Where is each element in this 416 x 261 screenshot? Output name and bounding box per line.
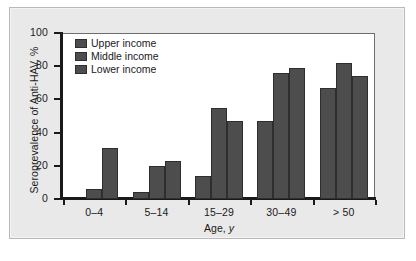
x-tick-label: 15–29 bbox=[184, 206, 254, 218]
bar bbox=[102, 148, 118, 199]
legend-swatch-icon bbox=[75, 39, 87, 48]
y-tick-mark bbox=[54, 165, 60, 167]
y-tick-mark bbox=[54, 65, 60, 67]
bar bbox=[273, 73, 289, 199]
bar bbox=[289, 68, 305, 199]
bar bbox=[320, 88, 336, 199]
legend-item: Middle income bbox=[75, 50, 159, 62]
x-tick-label: 5–14 bbox=[122, 206, 192, 218]
y-axis-title: Seroprevalence of Anti-HAV, % bbox=[28, 35, 40, 205]
x-axis-title-text: Age, bbox=[204, 222, 229, 234]
x-tick-mark bbox=[313, 200, 315, 205]
x-tick-mark bbox=[375, 200, 377, 205]
x-axis-title-variable: y bbox=[229, 222, 234, 234]
y-tick-mark bbox=[54, 98, 60, 100]
figure-container: 020406080100 Seroprevalence of Anti-HAV,… bbox=[0, 0, 416, 261]
x-tick-mark bbox=[125, 200, 127, 205]
legend-swatch-icon bbox=[75, 52, 87, 61]
x-tick-label: 0–4 bbox=[59, 206, 129, 218]
y-tick-mark bbox=[54, 132, 60, 134]
legend: Upper incomeMiddle incomeLower income bbox=[75, 37, 159, 75]
x-tick-mark bbox=[188, 200, 190, 205]
x-tick-mark bbox=[250, 200, 252, 205]
bar bbox=[352, 76, 368, 199]
legend-item: Lower income bbox=[75, 63, 159, 75]
legend-item-label: Lower income bbox=[91, 64, 156, 75]
bar bbox=[165, 161, 181, 199]
x-tick-mark bbox=[63, 200, 65, 205]
y-tick-mark bbox=[54, 32, 60, 34]
bar bbox=[195, 176, 211, 199]
bar bbox=[336, 63, 352, 199]
bar bbox=[227, 121, 243, 199]
y-tick-mark bbox=[54, 198, 60, 200]
bar bbox=[133, 192, 149, 199]
y-axis-line bbox=[60, 32, 63, 200]
x-tick-label: > 50 bbox=[309, 206, 379, 218]
legend-swatch-icon bbox=[75, 65, 87, 74]
legend-item-label: Middle income bbox=[91, 51, 159, 62]
bar bbox=[257, 121, 273, 199]
x-tick-label: 30–49 bbox=[246, 206, 316, 218]
legend-item-label: Upper income bbox=[91, 38, 156, 49]
x-axis-title: Age, y bbox=[63, 222, 375, 234]
legend-item: Upper income bbox=[75, 37, 159, 49]
bar bbox=[149, 166, 165, 199]
bar bbox=[86, 189, 102, 199]
bar bbox=[211, 108, 227, 199]
